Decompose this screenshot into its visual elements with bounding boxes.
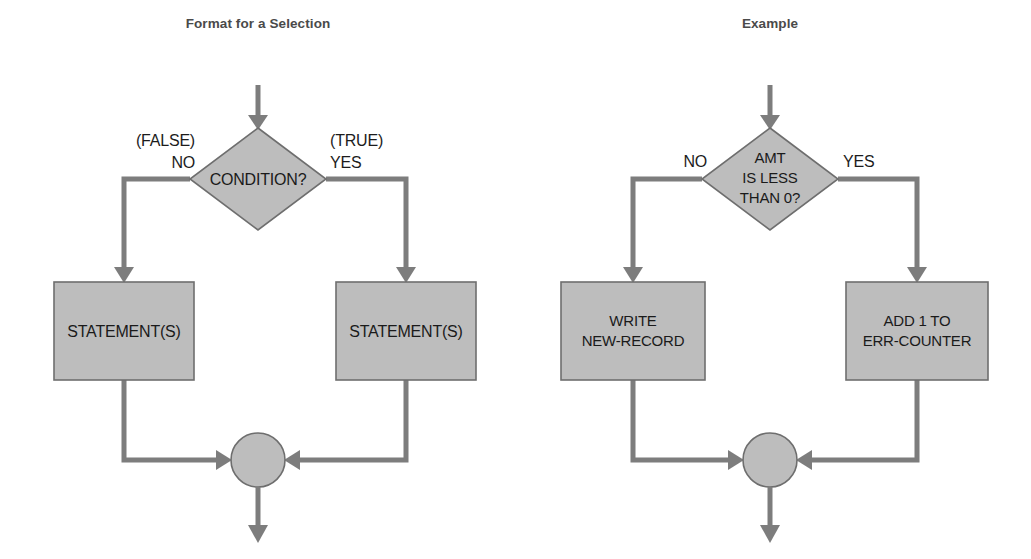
flowchart-canvas: Format for a Selection CON xyxy=(0,0,1031,559)
merge-circle-format[interactable] xyxy=(231,433,285,487)
decision-amt-line-3: THAN 0? xyxy=(740,189,800,206)
panel-example: Example AMT IS LESS xyxy=(561,16,988,543)
branch-label-true-yes: (TRUE) YES xyxy=(330,132,383,171)
merge-connector-left-format xyxy=(124,380,232,470)
process-box-add-err-counter[interactable]: ADD 1 TO ERR-COUNTER xyxy=(846,282,988,380)
process-box-statement-left-label: STATEMENT(S) xyxy=(67,323,180,340)
merge-connector-left-example xyxy=(633,380,744,470)
process-box-write-line-1: WRITE xyxy=(609,312,657,329)
branch-label-false: (FALSE) xyxy=(136,132,195,149)
exit-arrow-format xyxy=(248,487,268,543)
process-box-statement-right[interactable]: STATEMENT(S) xyxy=(336,282,476,380)
branch-label-yes-example: YES xyxy=(843,153,874,170)
branch-yes-connector-format xyxy=(326,179,416,283)
decision-amt-is-less-than-zero[interactable]: AMT IS LESS THAN 0? xyxy=(702,128,838,230)
merge-connector-right-format xyxy=(284,380,406,470)
process-box-write-new-record[interactable]: WRITE NEW-RECORD xyxy=(561,282,705,380)
branch-label-false-no: (FALSE) NO xyxy=(136,132,195,171)
merge-circle-example[interactable] xyxy=(743,433,797,487)
decision-amt-line-2: IS LESS xyxy=(742,169,797,186)
exit-arrow-example xyxy=(760,487,780,543)
process-box-write-line-2: NEW-RECORD xyxy=(582,332,685,349)
merge-connector-right-example xyxy=(796,380,917,470)
branch-yes-connector-example xyxy=(838,179,927,283)
panel-title-example: Example xyxy=(742,16,799,31)
branch-no-connector-example xyxy=(623,179,702,283)
branch-no-connector-format xyxy=(114,179,190,283)
panel-title-format: Format for a Selection xyxy=(186,16,331,31)
branch-label-no-example: NO xyxy=(683,153,707,170)
branch-label-no: NO xyxy=(171,154,195,171)
entry-arrow-example xyxy=(760,85,780,130)
process-box-add-line-1: ADD 1 TO xyxy=(883,312,950,329)
decision-condition-label: CONDITION? xyxy=(210,171,307,188)
process-box-add-line-2: ERR-COUNTER xyxy=(863,332,972,349)
panel-format-for-a-selection: Format for a Selection CON xyxy=(54,16,476,543)
branch-label-yes: YES xyxy=(330,154,361,171)
process-box-statement-left[interactable]: STATEMENT(S) xyxy=(54,282,194,380)
entry-arrow-format xyxy=(248,85,268,130)
process-box-statement-right-label: STATEMENT(S) xyxy=(349,323,462,340)
decision-amt-line-1: AMT xyxy=(754,149,785,166)
branch-label-true: (TRUE) xyxy=(330,132,383,149)
decision-condition[interactable]: CONDITION? xyxy=(190,128,326,230)
